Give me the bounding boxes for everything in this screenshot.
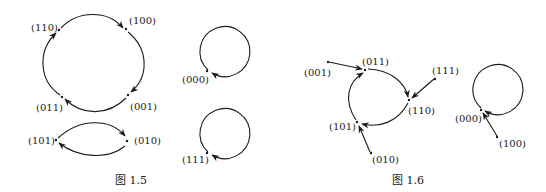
edge-010-101 <box>59 143 125 155</box>
label-100: (100) <box>129 15 156 26</box>
caption-figure-1-5: 图 1.5 <box>115 174 147 187</box>
edge-011-110 <box>43 33 60 95</box>
edge-110-100 <box>61 15 123 29</box>
label-101: (101) <box>329 121 356 132</box>
edge-001-011 <box>329 62 362 69</box>
node-101 <box>55 139 57 141</box>
label-110: (110) <box>31 22 58 33</box>
label-000: (000) <box>455 113 482 124</box>
label-010: (010) <box>134 135 161 146</box>
edge-111-111 <box>200 109 250 159</box>
edge-000-000 <box>200 27 250 77</box>
edge-100-001 <box>128 32 144 92</box>
node-001 <box>327 61 329 63</box>
edge-001-011 <box>65 98 126 112</box>
node-110 <box>58 29 60 31</box>
label-111: (111) <box>432 65 459 76</box>
edge-101-011 <box>349 73 363 120</box>
label-111: (111) <box>182 154 209 165</box>
label-011: (011) <box>362 56 389 67</box>
edge-010-101 <box>359 126 370 152</box>
label-001: (001) <box>304 67 331 78</box>
node-000 <box>206 70 208 72</box>
label-010: (010) <box>372 154 399 165</box>
edge-101-010 <box>58 123 125 138</box>
label-011: (011) <box>36 102 63 113</box>
node-010 <box>126 140 128 142</box>
node-011 <box>364 69 366 71</box>
node-111 <box>434 78 436 80</box>
edge-100-000 <box>483 113 497 136</box>
label-101: (101) <box>28 135 55 146</box>
edge-111-110 <box>412 79 434 98</box>
label-000: (000) <box>182 74 209 85</box>
label-110: (110) <box>408 105 435 116</box>
node-011 <box>61 96 63 98</box>
node-100 <box>125 28 127 30</box>
caption-figure-1-6: 图 1.6 <box>392 174 424 187</box>
node-101 <box>356 121 358 123</box>
node-000 <box>480 109 482 111</box>
node-001 <box>127 94 129 96</box>
figure-1-6: (001) (011) (111) (110) (101) (010) (000… <box>304 56 526 187</box>
edge-000-000 <box>473 65 523 115</box>
edge-011-110 <box>368 69 408 97</box>
state-diagrams: (110) (100) (001) (011) (101) (010) (000… <box>0 0 546 192</box>
label-001: (001) <box>130 101 157 112</box>
node-100 <box>496 136 498 138</box>
figure-1-5: (110) (100) (001) (011) (101) (010) (000… <box>28 15 250 188</box>
edge-110-101 <box>362 103 408 125</box>
node-110 <box>408 99 410 101</box>
label-100: (100) <box>499 138 526 149</box>
